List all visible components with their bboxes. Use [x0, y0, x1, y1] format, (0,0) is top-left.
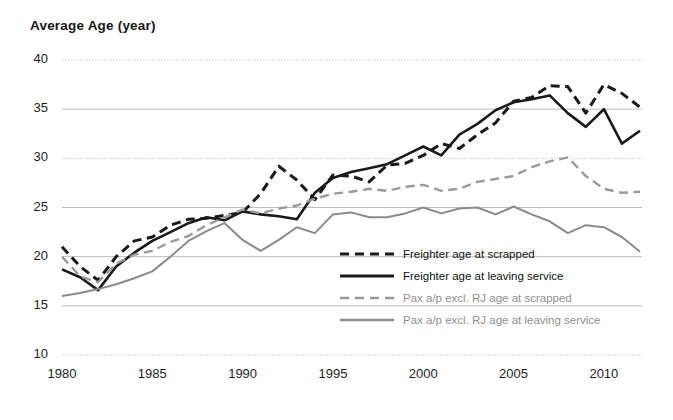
legend-label-3: Pax a/p excl. RJ age at leaving service: [403, 314, 601, 326]
x-tick-label-1980: 1980: [32, 366, 92, 381]
x-tick-label-1995: 1995: [303, 366, 363, 381]
chart-legend: Freighter age at scrappedFreighter age a…: [340, 243, 601, 331]
x-tick-label-2005: 2005: [484, 366, 544, 381]
legend-label-1: Freighter age at leaving service: [403, 270, 563, 282]
y-tick-label-30: 30: [14, 149, 48, 164]
legend-label-0: Freighter age at scrapped: [403, 248, 535, 260]
chart-plot-area: [0, 0, 673, 420]
chart-container: Average Age (year) 40353025201510 198019…: [0, 0, 673, 420]
legend-swatch-1: [340, 270, 394, 282]
y-tick-label-10: 10: [14, 346, 48, 361]
legend-item-0: Freighter age at scrapped: [340, 243, 601, 265]
x-tick-label-2000: 2000: [393, 366, 453, 381]
legend-swatch-0: [340, 248, 394, 260]
y-tick-label-35: 35: [14, 100, 48, 115]
y-tick-label-25: 25: [14, 199, 48, 214]
x-tick-label-1990: 1990: [213, 366, 273, 381]
legend-item-3: Pax a/p excl. RJ age at leaving service: [340, 309, 601, 331]
legend-item-2: Pax a/p excl. RJ age at scrapped: [340, 287, 601, 309]
legend-swatch-2: [340, 292, 394, 304]
legend-swatch-3: [340, 314, 394, 326]
legend-label-2: Pax a/p excl. RJ age at scrapped: [403, 292, 572, 304]
y-tick-label-20: 20: [14, 248, 48, 263]
y-tick-label-15: 15: [14, 297, 48, 312]
legend-item-1: Freighter age at leaving service: [340, 265, 601, 287]
x-tick-label-1985: 1985: [122, 366, 182, 381]
x-tick-label-2010: 2010: [574, 366, 634, 381]
y-tick-label-40: 40: [14, 51, 48, 66]
